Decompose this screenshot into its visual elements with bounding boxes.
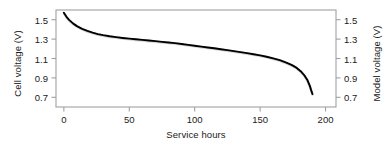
y-tick-label-right: 0.7 [344, 92, 370, 103]
x-tick-label: 150 [240, 114, 280, 125]
plot-area [0, 0, 392, 151]
y-tick-label-right: 1.5 [344, 14, 370, 25]
y-tick-label-left: 1.1 [22, 53, 48, 64]
y-tick-label-right: 1.1 [344, 53, 370, 64]
data-series [64, 13, 313, 95]
axis-box [56, 10, 336, 107]
model-voltage-line [64, 13, 313, 94]
y-tick-label-left: 1.5 [22, 14, 48, 25]
y-tick-label-right: 0.9 [344, 72, 370, 83]
y-tick-label-left: 1.3 [22, 34, 48, 45]
x-tick-label: 200 [306, 114, 346, 125]
measured-voltage-line [64, 13, 313, 94]
x-tick-label: 0 [44, 114, 84, 125]
discharge-curve-figure: Cell voltage (V) Model voltage (V) Servi… [0, 0, 392, 151]
x-tick-label: 100 [175, 114, 215, 125]
plot-frame [56, 10, 336, 107]
x-tick-label: 50 [109, 114, 149, 125]
y-tick-label-right: 1.3 [344, 34, 370, 45]
y-tick-label-left: 0.9 [22, 72, 48, 83]
y-tick-label-left: 0.7 [22, 92, 48, 103]
